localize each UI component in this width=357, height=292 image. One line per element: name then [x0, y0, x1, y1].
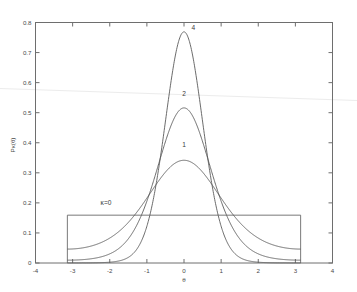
x-tick-label: -2 — [107, 267, 113, 274]
x-tick-label: 2 — [257, 267, 261, 274]
uniform-distribution-curve — [67, 215, 300, 263]
x-tick-label: 0 — [182, 267, 186, 274]
y-tick-label: 0.6 — [23, 79, 32, 86]
x-tick-label: 3 — [294, 267, 298, 274]
y-tick-label: 0.4 — [23, 139, 32, 146]
y-tick-label: 0.3 — [23, 169, 32, 176]
curve-annotation-1: 1 — [182, 141, 186, 148]
x-tick-label: -3 — [70, 267, 76, 274]
y-axis-label: Pκ(θ) — [9, 138, 16, 153]
y-tick-label: 0.8 — [23, 19, 32, 26]
curve-annotation-4: 4 — [191, 24, 195, 31]
curve-annotation-0: κ=0 — [101, 199, 112, 206]
curve-annotations: 421κ=0 — [101, 24, 196, 206]
x-tick-label: 4 — [331, 267, 335, 274]
x-axis-label: θ — [182, 276, 186, 283]
chart-figure: -4-3-2-101234 00.10.20.30.40.50.60.70.8 … — [0, 0, 357, 292]
von-mises-curve-kappa-2 — [67, 108, 300, 260]
y-tick-label: 0.7 — [23, 49, 32, 56]
y-tick-label: 0.2 — [23, 199, 32, 206]
y-tick-labels: 00.10.20.30.40.50.60.70.8 — [23, 19, 32, 267]
x-tick-label: -1 — [144, 267, 150, 274]
y-tick-label: 0.1 — [23, 229, 32, 236]
x-tick-label: 1 — [219, 267, 223, 274]
curve-annotation-2: 2 — [182, 90, 186, 97]
von-mises-distribution-plot: -4-3-2-101234 00.10.20.30.40.50.60.70.8 … — [0, 0, 357, 292]
y-tick-label: 0 — [28, 259, 32, 266]
scan-artifact-line — [0, 89, 357, 101]
y-tick-label: 0.5 — [23, 109, 32, 116]
x-tick-labels: -4-3-2-101234 — [33, 267, 335, 274]
x-tick-label: -4 — [33, 267, 39, 274]
